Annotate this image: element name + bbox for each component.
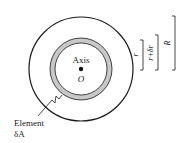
dimension-bracket-r [140, 40, 143, 70]
element-label: Element [14, 118, 44, 128]
axis-point [79, 67, 83, 71]
axis-label: Axis [72, 55, 90, 65]
annulus-diagram: Axis O Element δA r r+δr R [0, 0, 186, 143]
element-area-label: δA [14, 129, 25, 139]
element-leader-line [38, 95, 62, 116]
dimension-bracket-R [172, 16, 175, 70]
dimension-label-R: R [163, 40, 172, 46]
dimension-label-r: r [131, 53, 140, 57]
dimension-bracket-r-plus-dr [155, 35, 158, 70]
dimension-label-r-plus-dr: r+δr [146, 44, 155, 60]
origin-label: O [78, 74, 85, 84]
